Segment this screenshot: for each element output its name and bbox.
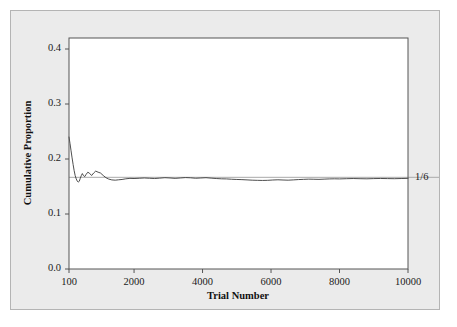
one-sixth-annotation-label: 1/6 xyxy=(415,171,428,182)
x-axis-tick-label: 4000 xyxy=(192,276,213,287)
x-axis-title: Trial Number xyxy=(207,290,269,301)
y-axis-tick-label: 0.2 xyxy=(48,152,61,163)
figure-outer-panel: 0.00.10.20.30.4 100200040006000800010000… xyxy=(10,10,440,310)
y-axis-tick-label: 0.1 xyxy=(48,207,61,218)
cumulative-proportion-chart: 0.00.10.20.30.4 100200040006000800010000… xyxy=(11,11,439,309)
y-axis-title: Cumulative Proportion xyxy=(22,101,33,206)
x-axis-ticks: 100200040006000800010000 xyxy=(61,269,421,287)
y-axis-ticks: 0.00.10.20.30.4 xyxy=(48,42,69,273)
x-axis-tick-label: 2000 xyxy=(124,276,145,287)
y-axis-tick-label: 0.3 xyxy=(48,97,61,108)
plot-area-background xyxy=(69,38,408,269)
figure-root: 0.00.10.20.30.4 100200040006000800010000… xyxy=(0,0,457,327)
x-axis-tick-label: 10000 xyxy=(395,276,421,287)
x-axis-tick-label: 8000 xyxy=(329,276,350,287)
x-axis-tick-label: 100 xyxy=(61,276,77,287)
x-axis-tick-label: 6000 xyxy=(261,276,282,287)
y-axis-tick-label: 0.0 xyxy=(48,262,61,273)
y-axis-tick-label: 0.4 xyxy=(48,42,62,53)
